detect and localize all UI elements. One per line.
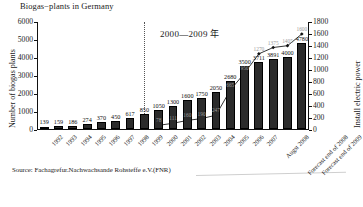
y-right-tick-label: 400 — [313, 102, 324, 110]
bar — [54, 126, 63, 129]
y-right-tick — [309, 46, 312, 47]
y-left-tick-label: 1000 — [18, 108, 33, 116]
y-left-tick — [34, 112, 37, 113]
x-axis-label: 2002 — [194, 134, 208, 148]
y-left-tick-label: 4000 — [18, 54, 33, 62]
y-left-tick — [34, 58, 37, 59]
y-left-tick-label: 2000 — [18, 90, 33, 98]
line-value-label: 1405 — [273, 39, 302, 44]
source-note: Source: Fachagrefur.Nachwachsande Rohste… — [12, 166, 171, 173]
y-right-tick — [309, 94, 312, 95]
bar — [126, 118, 135, 129]
bar — [269, 59, 278, 129]
x-axis-label: 1999 — [151, 134, 165, 148]
x-axis-label: 1996 — [108, 134, 122, 148]
y-right-tick-label: 1200 — [313, 54, 328, 62]
y-left-tick — [34, 40, 37, 41]
y-left-tick — [34, 76, 37, 77]
line-value-label: 1270 — [245, 47, 274, 52]
y-left-tick-label: 6000 — [18, 18, 33, 26]
y-right-tick-label: 0 — [313, 126, 317, 134]
y-right-tick — [309, 22, 312, 23]
x-axis-label: 1997 — [122, 134, 136, 148]
x-axis-label: 2004 — [223, 134, 237, 148]
y-right-tick — [309, 58, 312, 59]
y-right-tick-label: 200 — [313, 114, 324, 122]
x-axis-label: 2006 — [251, 134, 265, 148]
y-right-tick — [309, 106, 312, 107]
x-axis-label: 1995 — [94, 134, 108, 148]
y-right-tick-label: 1800 — [313, 18, 328, 26]
x-axis-label: 2000 — [165, 134, 179, 148]
bar — [83, 124, 92, 129]
y-axis-left-title: Number of biogas plants — [8, 49, 17, 128]
bar — [297, 43, 306, 129]
x-axis-label: 2003 — [208, 134, 222, 148]
plot-area: 0100020003000400050006000020040060080010… — [37, 22, 309, 130]
bar — [68, 126, 77, 129]
y-right-tick — [309, 82, 312, 83]
line-value-label: 950 — [230, 66, 259, 71]
line-value-label: 665 — [216, 83, 245, 88]
x-axis-label: Augst 2008 — [285, 134, 311, 160]
bar — [111, 121, 120, 129]
y-right-tick-label: 600 — [313, 90, 324, 98]
bar — [40, 127, 49, 130]
y-left-tick-label: 3000 — [18, 72, 33, 80]
y-left-tick — [34, 22, 37, 23]
x-axis-label: 2005 — [237, 134, 251, 148]
x-axis-label: 1998 — [137, 134, 151, 148]
y-left-tick — [34, 130, 37, 131]
y-left-tick — [34, 94, 37, 95]
bar — [97, 122, 106, 129]
y-axis-right-title: Install electric power — [353, 60, 362, 128]
y-right-tick-label: 1000 — [313, 66, 328, 74]
y-left-tick-label: 0 — [29, 126, 33, 134]
y-right-tick — [309, 34, 312, 35]
x-axis-label: 1993 — [65, 134, 79, 148]
bar — [283, 57, 292, 129]
x-axis-label: 2001 — [180, 134, 194, 148]
bar — [240, 66, 249, 129]
y-left-tick-label: 5000 — [18, 36, 33, 44]
x-axis-label: 1994 — [80, 134, 94, 148]
x-axis-label: 2007 — [266, 134, 280, 148]
y-right-tick-label: 800 — [313, 78, 324, 86]
page-title: Biogas−plants in Germany — [20, 1, 114, 11]
y-right-tick-label: 1400 — [313, 42, 328, 50]
line-value-label: 247 — [202, 108, 231, 113]
line-value-label: 1600 — [288, 27, 317, 32]
bar — [254, 62, 263, 129]
x-axis-label: 1992 — [51, 134, 65, 148]
y-right-tick — [309, 118, 312, 119]
y-right-tick — [309, 70, 312, 71]
y-right-tick — [309, 130, 312, 131]
